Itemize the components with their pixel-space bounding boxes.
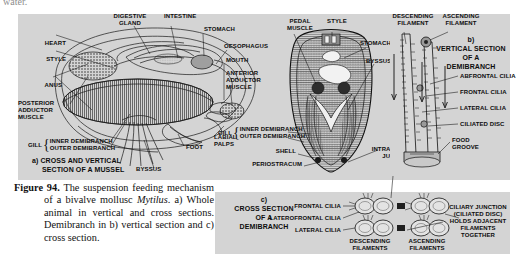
panel-c-title-line3: OF A <box>440 54 502 63</box>
panel-d-cross-demibranch: c) CROSS SECTION OF A DEMIBRANCH FRONTAL… <box>215 192 510 254</box>
label-style-b: STYLE <box>320 18 354 25</box>
panel-b-cross-section: PEDAL MUSCLE STYLE STOMACH BYSSUS GILL {… <box>274 14 390 180</box>
label-inner-demibranch: INNER DEMIBRANCH <box>50 138 115 145</box>
panel-a-whole-animal: HEART STYLE ANUS POSTERIOR ADDUCTOR MUSC… <box>18 14 274 180</box>
label-intestine: INTESTINE <box>164 13 220 20</box>
brace-icon: { <box>43 140 50 150</box>
label-outer-demibranch: OUTER DEMIBRANCH <box>50 145 115 152</box>
label-outer-demibranch-b: OUTER DEMIBRANCH <box>240 133 305 140</box>
label-lateral-cilia-d: LATERAL CILIA <box>275 227 341 234</box>
panel-c-title-line1: b) <box>440 36 502 45</box>
label-posterior-adductor-muscle: POSTERIOR ADDUCTOR MUSCLE <box>18 100 76 121</box>
label-laterofrontal-cilia: LATEROFRONTAL CILIA <box>253 215 341 222</box>
panel-c-title-line2: VERTICAL SECTION <box>434 45 508 54</box>
cut-off-body-text: water. <box>3 0 63 8</box>
label-frontal-cilia-c: FRONTAL CILIA <box>460 89 516 96</box>
label-frontal-cilia-d: FRONTAL CILIA <box>275 203 341 210</box>
panel-a-title-line2: SECTION OF A MUSSEL <box>42 166 172 175</box>
panel-c-vertical-demibranch: DESCENDING FILAMENT ASCENDING FILAMENT b… <box>390 14 510 180</box>
label-style: STYLE <box>16 56 66 63</box>
label-digestive-gland: DIGESTIVE GLAND <box>100 13 160 27</box>
label-stomach: STOMACH <box>204 26 260 33</box>
label-abfrontal-cilia: ABFRONTAL CILIA <box>460 73 520 80</box>
label-descending-filaments: DESCENDING FILAMENTS <box>341 238 399 252</box>
label-gill: GILL <box>28 142 42 149</box>
label-shell: SHELL <box>246 148 296 155</box>
gill-brace-group-b: GILL { INNER DEMIBRANCH OUTER DEMIBRANCH <box>218 126 305 140</box>
label-gill-b: GILL <box>218 130 232 137</box>
panel-a-artwork <box>18 14 274 180</box>
panel-a-title-line1: a) CROSS AND VERTICAL <box>32 157 162 166</box>
label-ciliated-disc: CILIATED DISC <box>460 121 516 128</box>
gill-brace-group: GILL { INNER DEMIBRANCH OUTER DEMIBRANCH <box>28 138 115 152</box>
label-anus: ANUS <box>14 82 62 89</box>
figure-caption: Figure 94. The suspension feeding mechan… <box>14 182 214 244</box>
caption-figure-number: Figure 94. <box>14 182 60 193</box>
label-foot: FOOT <box>186 144 220 151</box>
caption-italic-term: Mytilus <box>137 194 168 205</box>
label-food-groove: FOOD GROOVE <box>452 137 496 151</box>
label-heart: HEART <box>16 40 66 47</box>
panel-c-title-line4: DEMIBRANCH <box>436 63 506 72</box>
label-ciliary-junction-note: CILIARY JUNCTION (CILIATED DISC) HOLDS A… <box>447 204 509 239</box>
label-periostracum: PERIOSTRACUM <box>238 161 302 168</box>
label-descending-filament: DESCENDING FILAMENT <box>386 13 440 27</box>
brace-icon-b: { <box>233 128 240 138</box>
label-lateral-cilia-c: LATERAL CILIA <box>460 105 516 112</box>
label-ascending-filament: ASCENDING FILAMENT <box>436 13 486 27</box>
figure-page: water. <box>0 0 526 269</box>
caption-text: The suspension feeding mechanism of a bi… <box>44 182 214 243</box>
label-ascending-filaments: ASCENDING FILAMENTS <box>399 238 455 252</box>
label-pedal-muscle: PEDAL MUSCLE <box>278 18 322 32</box>
label-mouth: MOUTH <box>226 57 270 64</box>
label-inner-demibranch-b: INNER DEMIBRANCH <box>240 126 305 133</box>
